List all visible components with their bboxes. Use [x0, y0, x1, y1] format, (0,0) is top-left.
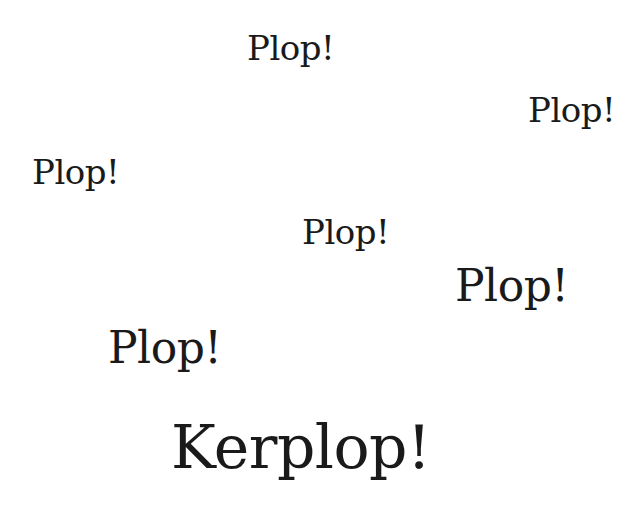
kerplop-word: Kerplop!	[171, 417, 431, 477]
plop-word-5: Plop!	[455, 264, 569, 308]
plop-word-4: Plop!	[302, 215, 389, 249]
plop-word-2: Plop!	[528, 93, 615, 127]
plop-word-6: Plop!	[108, 326, 222, 370]
plop-word-1: Plop!	[247, 31, 334, 65]
canvas: Plop! Plop! Plop! Plop! Plop! Plop! Kerp…	[0, 0, 644, 528]
plop-word-3: Plop!	[32, 155, 119, 189]
